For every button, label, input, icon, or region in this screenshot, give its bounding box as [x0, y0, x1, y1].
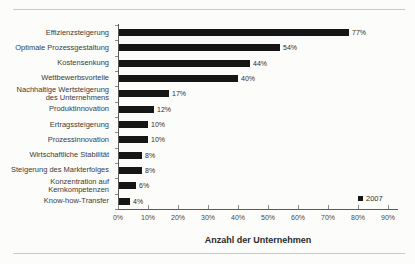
value-label: 17%	[172, 90, 186, 97]
value-label: 10%	[151, 136, 165, 143]
y-axis-line	[118, 24, 119, 210]
bar-row: Wirtschaftliche Stabilität8%	[0, 147, 415, 162]
value-label: 77%	[352, 29, 366, 36]
bar-area: 77%	[118, 25, 415, 40]
x-axis-tick	[328, 205, 329, 209]
bar-row: Ertragssteigerung10%	[0, 117, 415, 132]
x-axis-tick-label: 70%	[313, 214, 343, 221]
x-axis-tick	[178, 205, 179, 209]
y-axis-tick	[115, 209, 118, 210]
bar	[118, 182, 136, 189]
legend-swatch-2007	[358, 196, 363, 201]
bar-row: Prozessinnovation10%	[0, 132, 415, 147]
y-axis-tick	[115, 25, 118, 26]
y-axis-tick	[115, 71, 118, 72]
x-axis-tick	[388, 205, 389, 209]
bar-row: Steigerung des Markterfolges8%	[0, 163, 415, 178]
bar	[118, 136, 148, 143]
y-axis-tick	[115, 178, 118, 179]
bar-area: 6%	[118, 178, 415, 194]
x-axis-tick-label: 40%	[223, 214, 253, 221]
value-label: 8%	[145, 167, 155, 174]
value-label: 12%	[157, 106, 171, 113]
y-axis-tick	[115, 40, 118, 41]
bar-row: Konzentration auf Kernkompetenzen6%	[0, 178, 415, 194]
y-axis-tick	[115, 148, 118, 149]
bar-row: Effizienzsteigerung77%	[0, 25, 415, 40]
y-axis-tick	[115, 56, 118, 57]
category-label: Steigerung des Markterfolges	[0, 166, 114, 174]
top-divider	[13, 9, 405, 10]
x-axis-tick-label: 50%	[253, 214, 283, 221]
x-axis-tick-label: 60%	[283, 214, 313, 221]
x-axis-tick	[298, 205, 299, 209]
bar-area: 10%	[118, 132, 415, 147]
category-label: Nachhaltige Wertsteigerung des Unternehm…	[0, 86, 114, 102]
y-axis-tick	[115, 194, 118, 195]
legend-label: 2007	[366, 194, 383, 203]
bar-area: 17%	[118, 86, 415, 102]
y-axis-tick	[115, 163, 118, 164]
category-label: Produktinnovation	[0, 105, 114, 113]
bar-area: 54%	[118, 40, 415, 55]
category-label: Kostensenkung	[0, 59, 114, 67]
bar	[118, 167, 142, 174]
bar	[118, 121, 148, 128]
bar-area: 40%	[118, 71, 415, 86]
bar-row: Nachhaltige Wertsteigerung des Unternehm…	[0, 86, 415, 102]
bar-area: 10%	[118, 117, 415, 132]
x-axis-tick-label: 20%	[163, 214, 193, 221]
y-axis-tick	[115, 86, 118, 87]
bottom-divider	[13, 253, 405, 254]
x-axis-tick-label: 10%	[133, 214, 163, 221]
bar-area: 8%	[118, 147, 415, 162]
bar	[118, 44, 280, 51]
bar-area: 44%	[118, 55, 415, 70]
x-axis-tick	[118, 205, 119, 209]
x-axis-tick	[148, 205, 149, 209]
x-axis-tick-label: 80%	[343, 214, 373, 221]
bar	[118, 198, 130, 205]
chart-page: Effizienzsteigerung77%Optimale Prozessge…	[0, 0, 415, 264]
category-label: Optimale Prozessgestaltung	[0, 44, 114, 52]
category-label: Know-how-Transfer	[0, 197, 114, 205]
bar-rows: Effizienzsteigerung77%Optimale Prozessge…	[0, 25, 415, 209]
value-label: 8%	[145, 152, 155, 159]
x-axis-tick-label: 90%	[373, 214, 403, 221]
x-axis-tick-label: 0%	[103, 214, 133, 221]
category-label: Prozessinnovation	[0, 136, 114, 144]
category-label: Konzentration auf Kernkompetenzen	[0, 178, 114, 194]
category-label: Wettbewerbsvorteile	[0, 74, 114, 82]
value-label: 6%	[139, 182, 149, 189]
bar	[118, 152, 142, 159]
bar-row: Wettbewerbsvorteile40%	[0, 71, 415, 86]
bar	[118, 60, 250, 67]
bar-area: 8%	[118, 163, 415, 178]
category-label: Ertragssteigerung	[0, 121, 114, 129]
legend: 2007	[358, 194, 383, 203]
bar-row: Produktinnovation12%	[0, 102, 415, 117]
x-axis-title: Anzahl der Unternehmen	[118, 235, 398, 245]
value-label: 40%	[241, 75, 255, 82]
y-axis-tick	[115, 102, 118, 103]
y-axis-tick	[115, 132, 118, 133]
category-label: Wirtschaftliche Stabilität	[0, 151, 114, 159]
bar-row: Kostensenkung44%	[0, 55, 415, 70]
x-axis-tick	[238, 205, 239, 209]
bar-area: 12%	[118, 102, 415, 117]
category-label: Effizienzsteigerung	[0, 29, 114, 37]
bar	[118, 75, 238, 82]
y-axis-tick	[115, 117, 118, 118]
bar-row: Optimale Prozessgestaltung54%	[0, 40, 415, 55]
bar	[118, 106, 154, 113]
bar	[118, 29, 349, 36]
x-axis-tick	[208, 205, 209, 209]
value-label: 4%	[133, 198, 143, 205]
x-axis-tick	[268, 205, 269, 209]
bar	[118, 90, 169, 97]
x-axis-tick	[358, 205, 359, 209]
x-axis-line	[118, 209, 398, 210]
value-label: 44%	[253, 60, 267, 67]
value-label: 10%	[151, 121, 165, 128]
x-axis-tick-label: 30%	[193, 214, 223, 221]
